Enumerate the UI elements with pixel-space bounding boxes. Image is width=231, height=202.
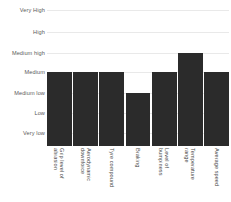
bar-tyre-compound[interactable] bbox=[99, 72, 124, 146]
x-label-column: Tyre compound bbox=[99, 148, 124, 202]
x-label-column: Temperature range bbox=[178, 148, 203, 202]
x-tick-label-braking: Braking bbox=[135, 148, 141, 196]
x-label-column: Grip level of abrasion bbox=[47, 148, 72, 202]
bar-grip-level-of-abrasion[interactable] bbox=[47, 72, 72, 146]
x-axis-labels: Grip level of abrasion Aerodynamic downf… bbox=[47, 148, 229, 202]
bar-column bbox=[126, 0, 151, 146]
bar-braking[interactable] bbox=[126, 93, 151, 146]
x-tick-label-temperature-range: Temperature range bbox=[184, 148, 196, 196]
x-label-column: Average speed bbox=[204, 148, 229, 202]
x-tick-label-aerodynamic-downforce: Aerodynamic downforce bbox=[79, 148, 91, 196]
y-tick-label-very-high: Very High bbox=[0, 7, 45, 13]
bar-chart: Very High High Medium high Medium Medium… bbox=[0, 0, 231, 202]
y-tick-label-very-low: Very low bbox=[0, 130, 45, 136]
x-tick-label-level-of-bumpiness: Level of bumpiness bbox=[158, 148, 170, 196]
bar-column bbox=[47, 0, 72, 146]
y-tick-label-low: Low bbox=[0, 110, 45, 116]
y-tick-label-medium-low: Medium low bbox=[0, 90, 45, 96]
y-tick-label-medium-high: Medium high bbox=[0, 50, 45, 56]
bar-column bbox=[204, 0, 229, 146]
x-tick-label-tyre-compound: Tyre compound bbox=[109, 148, 115, 196]
x-tick-label-average-speed: Average speed bbox=[214, 148, 220, 196]
x-label-column: Aerodynamic downforce bbox=[73, 148, 98, 202]
bar-column bbox=[178, 0, 203, 146]
bar-average-speed[interactable] bbox=[204, 72, 229, 146]
x-label-column: Braking bbox=[126, 148, 151, 202]
bar-column bbox=[73, 0, 98, 146]
x-tick-label-grip-level-of-abrasion: Grip level of abrasion bbox=[53, 148, 65, 196]
bar-series bbox=[47, 0, 229, 146]
bar-column bbox=[152, 0, 177, 146]
bar-temperature-range[interactable] bbox=[178, 53, 203, 146]
x-label-column: Level of bumpiness bbox=[152, 148, 177, 202]
y-tick-label-high: High bbox=[0, 29, 45, 35]
bar-level-of-bumpiness[interactable] bbox=[152, 72, 177, 146]
bar-column bbox=[99, 0, 124, 146]
y-tick-label-medium: Medium bbox=[0, 69, 45, 75]
bar-aerodynamic-downforce[interactable] bbox=[73, 72, 98, 146]
